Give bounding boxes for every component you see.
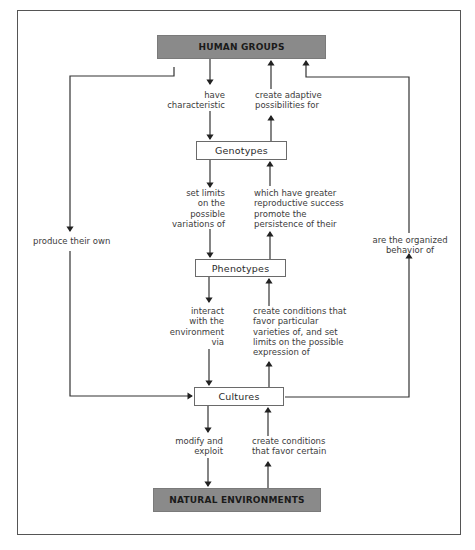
edge-label-create-adaptive-possibilities: create adaptive possibilities for: [255, 90, 322, 111]
node-human-groups: HUMAN GROUPS: [157, 35, 326, 59]
node-cultures: Cultures: [194, 387, 284, 406]
edge-label-create-conditions-certain: create conditions that favor certain: [252, 436, 326, 457]
node-natural-environments: NATURAL ENVIRONMENTS: [153, 488, 321, 512]
edge-label-have-characteristic: have characteristic: [167, 90, 225, 111]
edge-label-produce-their-own: produce their own: [33, 236, 109, 246]
edge-label-organized-behavior: are the organized behavior of: [368, 235, 452, 256]
edge-label-modify-and-exploit: modify and exploit: [175, 436, 223, 457]
edge-label-create-conditions-varieties: create conditions that favor particular …: [253, 306, 346, 357]
edge-label-interact-with-environment: interact with the environment via: [170, 306, 224, 347]
node-phenotypes: Phenotypes: [195, 259, 286, 277]
edge-label-set-limits: set limits on the possible variations of: [172, 188, 225, 229]
edge-label-reproductive-success: which have greater reproductive success …: [254, 188, 344, 229]
node-genotypes: Genotypes: [196, 141, 287, 160]
